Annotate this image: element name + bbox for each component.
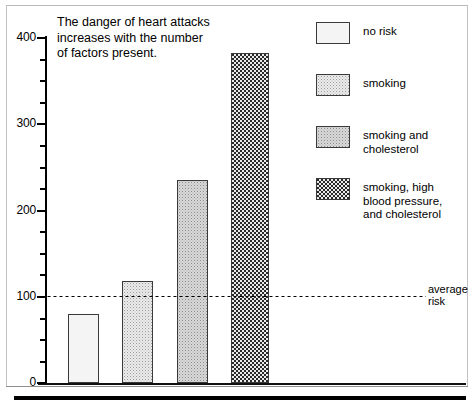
legend-label-allthree-line-3: and cholesterol	[363, 208, 442, 222]
y-minor-tick-150	[40, 253, 46, 255]
y-tick-300	[37, 123, 46, 125]
y-minor-tick-50	[40, 339, 46, 341]
legend-label-smokchol-line-1: smoking and	[363, 129, 428, 143]
average-risk-label: average risk	[428, 283, 468, 307]
y-tick-label-400-wrap: 400	[0, 31, 36, 43]
y-minor-tick-350	[40, 80, 46, 82]
y-minor-tick-125	[40, 274, 46, 276]
y-minor-tick-325	[40, 102, 46, 104]
legend-swatch-smoking-and-cholesterol	[316, 126, 350, 148]
average-risk-label-line-2: risk	[428, 295, 468, 307]
y-minor-tick-275	[40, 145, 46, 147]
y-tick-label-300: 300	[2, 117, 36, 129]
legend-label-allthree-line-2: blood pressure,	[363, 195, 442, 209]
y-tick-200	[37, 210, 46, 212]
legend-item-smoking-and-cholesterol: smoking and cholesterol	[316, 126, 428, 156]
chart-title-line-3: of factors present.	[57, 46, 247, 62]
legend-label-smoking-line-1: smoking	[363, 77, 406, 91]
legend-swatch-smoking	[316, 74, 350, 96]
chart-title-line-1: The danger of heart attacks	[57, 15, 247, 31]
legend-item-smoking: smoking	[316, 74, 406, 96]
y-tick-label-200-wrap: 200	[0, 204, 36, 216]
y-tick-100	[37, 296, 46, 298]
legend-label-smoking: smoking	[363, 74, 406, 91]
y-tick-label-0-wrap: 0	[0, 376, 36, 388]
plot-area: The danger of heart attacks increases wi…	[0, 0, 474, 407]
legend-label-smokchol-line-2: cholesterol	[363, 143, 428, 157]
average-risk-reference-line	[46, 295, 426, 298]
y-tick-label-300-wrap: 300	[0, 117, 36, 129]
chart-title: The danger of heart attacks increases wi…	[57, 15, 247, 62]
legend-label-no-risk: no risk	[363, 22, 397, 39]
y-tick-label-400: 400	[2, 31, 36, 43]
legend-label-smoking-high-bp-and-cholesterol: smoking, high blood pressure, and choles…	[363, 178, 442, 222]
y-tick-label-100: 100	[2, 290, 36, 302]
legend-item-no-risk: no risk	[316, 22, 397, 44]
chart-figure: The danger of heart attacks increases wi…	[0, 0, 474, 407]
legend-item-smoking-high-bp-and-cholesterol: smoking, high blood pressure, and choles…	[316, 178, 442, 222]
legend-swatch-smoking-high-bp-and-cholesterol	[316, 178, 350, 200]
y-tick-label-200: 200	[2, 204, 36, 216]
x-axis-line	[38, 383, 466, 385]
y-minor-tick-250	[40, 167, 46, 169]
y-tick-label-100-wrap: 100	[0, 290, 36, 302]
legend-label-no-risk-line-1: no risk	[363, 25, 397, 39]
y-minor-tick-25	[40, 361, 46, 363]
y-tick-label-0: 0	[2, 376, 36, 388]
legend-label-smoking-and-cholesterol: smoking and cholesterol	[363, 126, 428, 156]
legend-label-allthree-line-1: smoking, high	[363, 181, 442, 195]
y-minor-tick-175	[40, 231, 46, 233]
legend-swatch-no-risk	[316, 22, 350, 44]
bar-smoking-high-bp-and-cholesterol	[231, 53, 269, 383]
bar-smoking-and-cholesterol	[177, 180, 208, 383]
y-minor-tick-225	[40, 188, 46, 190]
y-tick-400	[37, 37, 46, 39]
y-tick-0	[37, 382, 46, 384]
chart-title-line-2: increases with the number	[57, 31, 247, 47]
y-minor-tick-375	[40, 59, 46, 61]
average-risk-label-line-1: average	[428, 283, 468, 295]
bar-no-risk	[68, 314, 99, 383]
y-minor-tick-75	[40, 318, 46, 320]
